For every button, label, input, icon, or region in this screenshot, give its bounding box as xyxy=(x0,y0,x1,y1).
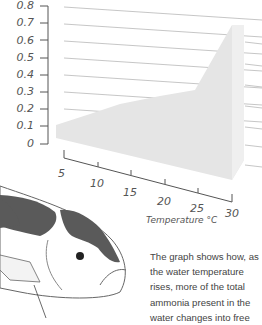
y-tick-label: 0.3 xyxy=(0,86,34,98)
caption-text: The graph shows how, as the water temper… xyxy=(150,249,262,325)
x-tick-label: 30 xyxy=(225,208,239,220)
y-tick-label: 0.1 xyxy=(0,120,34,132)
y-tick-label: 0.8 xyxy=(0,0,34,12)
x-tick-label: 5 xyxy=(58,168,65,180)
y-axis xyxy=(40,6,48,144)
x-tick-label: 20 xyxy=(157,196,171,208)
x-axis-title: Temperature °C xyxy=(146,215,217,225)
y-tick-label: 0.6 xyxy=(0,35,34,47)
area-series xyxy=(56,25,244,180)
x-tick-label: 15 xyxy=(123,187,137,199)
x-tick-label: 25 xyxy=(190,203,204,215)
y-tick-label: 0.2 xyxy=(0,103,34,115)
y-tick-label: 0.4 xyxy=(0,69,34,81)
x-tick-label: 10 xyxy=(90,178,104,190)
y-tick-label: 0.5 xyxy=(0,52,34,64)
koi-fish-illustration xyxy=(0,186,126,318)
y-tick-label: 0 xyxy=(0,138,34,150)
y-tick-label: 0.7 xyxy=(0,17,34,29)
